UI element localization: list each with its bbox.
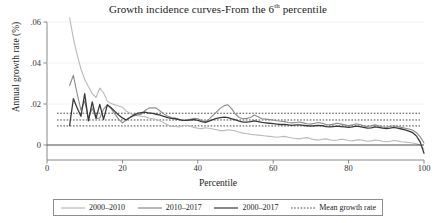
legend-swatch-icon (137, 204, 163, 212)
legend-swatch-icon (213, 204, 239, 212)
series-line-2010-2017 (70, 75, 424, 143)
legend-label: Mean growth rate (319, 203, 376, 212)
legend-label: 2010–2017 (166, 203, 202, 212)
legend-item[interactable]: 2000–2017 (213, 203, 278, 212)
growth-incidence-curves-figure: Growth incidence curves-From the 6th per… (0, 0, 436, 223)
series-line-2000-2010 (70, 18, 424, 149)
legend-item[interactable]: Mean growth rate (290, 203, 376, 212)
legend-item[interactable]: 2000–2010 (60, 203, 125, 212)
legend-swatch-icon (60, 204, 86, 212)
plot-canvas (0, 0, 436, 223)
series-lines (70, 18, 424, 153)
series-line-2000-2017 (70, 94, 424, 153)
chart-legend[interactable]: 2000–20102010–20172000–2017Mean growth r… (53, 199, 383, 216)
mean-growth-rate-lines (57, 113, 420, 126)
legend-item[interactable]: 2010–2017 (137, 203, 202, 212)
legend-swatch-icon (290, 204, 316, 212)
legend-label: 2000–2010 (89, 203, 125, 212)
axes-group (44, 22, 425, 164)
legend-label: 2000–2017 (242, 203, 278, 212)
